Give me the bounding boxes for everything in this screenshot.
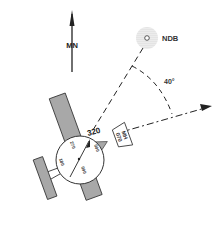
heading-line: [118, 104, 212, 133]
angle-arc: [132, 66, 172, 114]
magnetic-north-label: MN: [66, 41, 78, 50]
compass-320-label: 320: [86, 126, 102, 138]
ndb-label: NDB: [162, 34, 179, 43]
ndb-icon: [136, 27, 158, 49]
magnetic-heading-box: MH 070: [111, 122, 132, 149]
angle-label: 40°: [164, 78, 175, 85]
bearing-line-to-ndb: [93, 48, 143, 130]
ndb-bearing-diagram: MN NDB 40° 320 270 180 000 090: [0, 0, 222, 234]
